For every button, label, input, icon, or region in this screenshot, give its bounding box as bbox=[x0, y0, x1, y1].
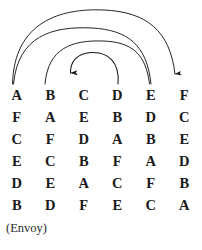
arc-a-to-e-path bbox=[14, 28, 152, 84]
grid-cell: E bbox=[34, 172, 68, 194]
grid-cell: F bbox=[134, 172, 168, 194]
grid-cell: B bbox=[0, 194, 34, 216]
grid-cell: E bbox=[134, 84, 168, 106]
table-row: A B C D E F bbox=[0, 84, 201, 106]
grid-cell: D bbox=[0, 172, 34, 194]
grid-cell: F bbox=[0, 106, 34, 128]
grid-cell: D bbox=[34, 194, 68, 216]
grid-cell: D bbox=[168, 150, 202, 172]
grid-cell: F bbox=[168, 84, 202, 106]
grid-cell: E bbox=[67, 106, 101, 128]
grid-cell: E bbox=[0, 150, 34, 172]
grid-cell: C bbox=[168, 106, 202, 128]
grid-cell: C bbox=[0, 128, 34, 150]
grid-cell: D bbox=[134, 106, 168, 128]
grid-cell: A bbox=[34, 106, 68, 128]
arc-b-to-e-path bbox=[45, 41, 150, 84]
table-row: C F D A B E bbox=[0, 128, 201, 150]
grid-cell: F bbox=[101, 150, 135, 172]
grid-cell: A bbox=[0, 84, 34, 106]
grid-cell: C bbox=[34, 150, 68, 172]
grid-cell: A bbox=[101, 128, 135, 150]
grid-cell: E bbox=[168, 128, 202, 150]
grid-cell: C bbox=[67, 84, 101, 106]
letter-grid: A B C D E F F A E B D C C F D A B E E C … bbox=[0, 84, 201, 216]
table-row: D E A C F B bbox=[0, 172, 201, 194]
grid-cell: D bbox=[101, 84, 135, 106]
grid-cell: F bbox=[67, 194, 101, 216]
arc-d-to-c-path bbox=[70, 52, 118, 84]
grid-cell: A bbox=[134, 150, 168, 172]
envoy-permutation-figure: A B C D E F F A E B D C C F D A B E E C … bbox=[0, 0, 201, 250]
grid-cell: E bbox=[101, 194, 135, 216]
table-row: B D F E C A bbox=[0, 194, 201, 216]
grid-cell: C bbox=[134, 194, 168, 216]
grid-cell: B bbox=[34, 84, 68, 106]
grid-cell: F bbox=[34, 128, 68, 150]
grid-cell: A bbox=[67, 172, 101, 194]
grid-cell: B bbox=[134, 128, 168, 150]
table-row: E C B F A D bbox=[0, 150, 201, 172]
grid-cell: B bbox=[67, 150, 101, 172]
grid-cell: B bbox=[101, 106, 135, 128]
arc-layer bbox=[0, 0, 201, 92]
arc-a-to-f-path bbox=[13, 10, 176, 84]
figure-caption: (Envoy) bbox=[6, 221, 47, 236]
table-row: F A E B D C bbox=[0, 106, 201, 128]
grid-cell: D bbox=[67, 128, 101, 150]
grid-cell: C bbox=[101, 172, 135, 194]
grid-cell: B bbox=[168, 172, 202, 194]
grid-cell: A bbox=[168, 194, 202, 216]
